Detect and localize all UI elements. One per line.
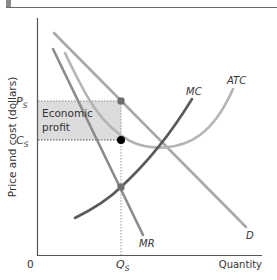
mr-label: MR: [139, 238, 155, 249]
qs-tick-label: QS: [116, 258, 130, 273]
cs-tick-label: CS: [16, 134, 29, 149]
x-axis-label: Quantity: [219, 259, 262, 270]
atc-label: ATC: [226, 75, 246, 86]
cs-point-marker: [117, 136, 125, 144]
profit-maximization-chart: Price and cost (dollars) PS CS Economic …: [0, 0, 277, 280]
economic-profit-label-line1: Economic: [42, 107, 93, 119]
demand-label: D: [246, 230, 254, 241]
mc-mr-intersection-marker: [118, 184, 125, 191]
ps-point-marker: [118, 98, 125, 105]
mc-label: MC: [186, 86, 202, 97]
header-marker: [6, 0, 11, 8]
origin-label: 0: [27, 258, 34, 270]
economic-profit-label-line2: profit: [42, 121, 70, 133]
ps-tick-label: PS: [16, 95, 28, 110]
